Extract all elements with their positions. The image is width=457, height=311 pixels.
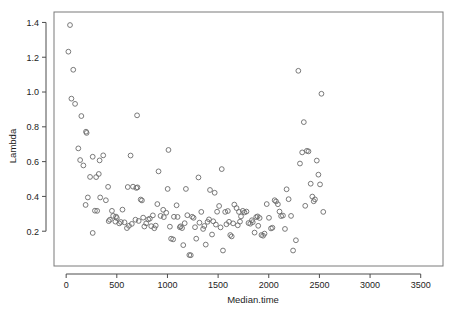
y-axis-tick-label: 0.4 xyxy=(26,192,39,202)
x-axis-tick-label: 3000 xyxy=(360,280,380,290)
y-axis-tick-label: 1.4 xyxy=(26,18,39,28)
y-axis-tick-label: 0.8 xyxy=(26,122,39,132)
x-axis-tick-label: 500 xyxy=(109,280,124,290)
plot-canvas: 0.20.40.60.81.01.21.4 050010001500200025… xyxy=(0,0,457,311)
x-axis-tick-label: 2000 xyxy=(259,280,279,290)
x-axis-tick-label: 2500 xyxy=(309,280,329,290)
scatter-plot-figure: 0.20.40.60.81.01.21.4 050010001500200025… xyxy=(0,0,457,311)
y-axis-title: Lambda xyxy=(7,128,18,163)
x-axis-tick-label: 0 xyxy=(64,280,69,290)
x-axis-tick-label: 1500 xyxy=(208,280,228,290)
figure-background xyxy=(0,0,457,311)
y-axis-tick-label: 0.2 xyxy=(26,227,39,237)
x-axis-tick-label: 1000 xyxy=(157,280,177,290)
y-axis-tick-label: 1.0 xyxy=(26,87,39,97)
y-axis-tick-label: 0.6 xyxy=(26,157,39,167)
x-axis-tick-label: 3500 xyxy=(411,280,431,290)
x-axis-title: Median.time xyxy=(227,294,279,305)
y-axis-tick-label: 1.2 xyxy=(26,53,39,63)
